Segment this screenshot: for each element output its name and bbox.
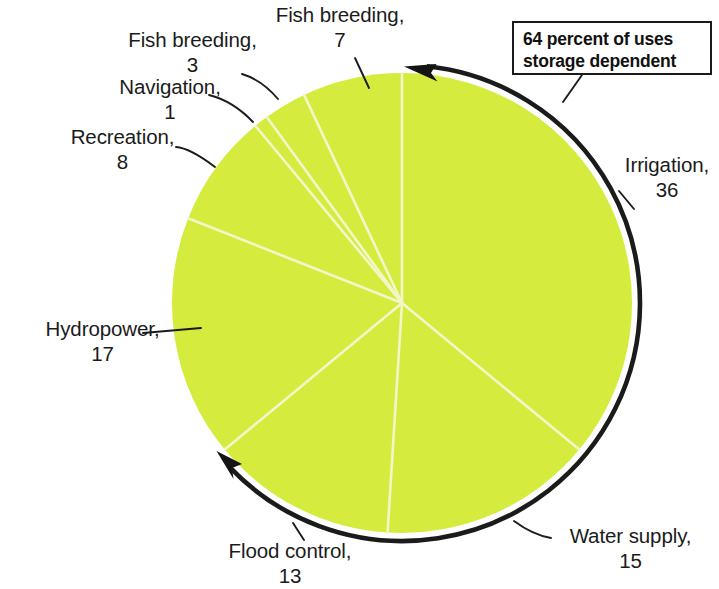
label-navigation: Navigation, 1 [60, 74, 280, 124]
label-water-supply-value: 15 [543, 548, 718, 573]
label-flood-control-value: 13 [195, 563, 385, 588]
label-hydropower: Hydropower, 17 [0, 316, 210, 366]
callout-line-1: 64 percent of uses [523, 28, 710, 50]
callout-line-2: storage dependent [523, 50, 710, 72]
label-navigation-name: Navigation, [119, 75, 220, 98]
label-fish-breeding-7-name: Fish breeding, [276, 3, 405, 26]
label-flood-control-name: Flood control, [229, 539, 352, 562]
label-water-supply-name: Water supply, [570, 524, 692, 547]
label-recreation-name: Recreation, [71, 125, 175, 148]
storage-dependent-callout: 64 percent of uses storage dependent [512, 21, 712, 75]
label-fish-breeding-3: Fish breeding, 3 [85, 27, 300, 77]
label-irrigation: Irrigation, 36 [615, 152, 719, 202]
label-recreation-value: 8 [15, 149, 230, 174]
label-navigation-value: 1 [60, 99, 280, 124]
label-water-supply: Water supply, 15 [543, 523, 718, 573]
leader-callout [563, 75, 582, 102]
label-irrigation-value: 36 [615, 177, 719, 202]
label-irrigation-name: Irrigation, [625, 153, 709, 176]
label-fish-breeding-3-name: Fish breeding, [128, 28, 257, 51]
label-recreation: Recreation, 8 [15, 124, 230, 174]
label-flood-control: Flood control, 13 [195, 538, 385, 588]
label-hydropower-name: Hydropower, [46, 317, 160, 340]
label-hydropower-value: 17 [0, 341, 210, 366]
